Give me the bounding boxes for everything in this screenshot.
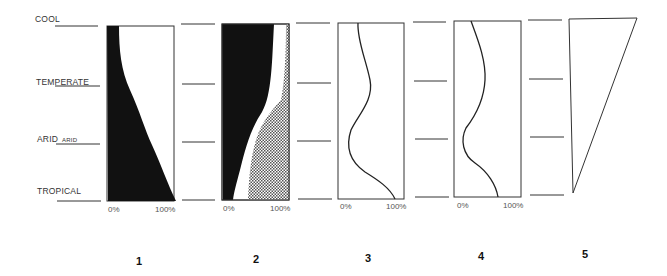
p1-axis-min: 0%	[108, 205, 120, 214]
p4-axis-max: 100%	[503, 201, 523, 210]
panel-number-3: 3	[365, 252, 371, 264]
panel-2	[222, 24, 289, 200]
diagram-canvas	[0, 0, 667, 276]
panel-number-4: 4	[478, 250, 484, 262]
panel-number-5: 5	[582, 248, 588, 260]
panel-3	[338, 23, 404, 199]
panel-1	[107, 26, 176, 201]
p2-axis-max: 100%	[270, 204, 290, 213]
panel-number-1: 1	[136, 255, 142, 267]
panel-number-2: 2	[253, 253, 259, 265]
p4-axis-min: 0%	[457, 201, 469, 210]
p1-axis-max: 100%	[155, 205, 175, 214]
panel-5	[569, 18, 637, 193]
panel-4	[454, 21, 521, 197]
p3-axis-max: 100%	[386, 202, 406, 211]
p3-axis-min: 0%	[340, 202, 352, 211]
p2-axis-min: 0%	[223, 204, 235, 213]
